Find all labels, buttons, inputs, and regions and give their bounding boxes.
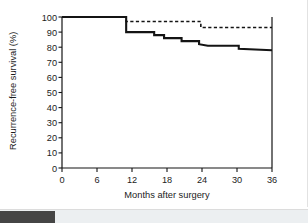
y-tick-80: 80 xyxy=(47,43,57,53)
y-tick-50: 50 xyxy=(47,88,57,98)
dashed-curve-path xyxy=(62,17,272,28)
y-tick-labels: 100 90 80 70 60 50 40 30 20 10 0 xyxy=(42,13,57,174)
x-tick-18: 18 xyxy=(162,175,172,185)
x-tick-6: 6 xyxy=(94,175,99,185)
kaplan-meier-chart: Recurrence-free survival (%) 100 90 80 7… xyxy=(0,0,308,207)
x-axis xyxy=(62,17,272,172)
y-tick-40: 40 xyxy=(47,103,57,113)
x-axis-title: Months after surgery xyxy=(124,190,210,200)
figure-panel: Recurrence-free survival (%) 100 90 80 7… xyxy=(0,0,308,207)
x-tick-36: 36 xyxy=(267,175,277,185)
y-tick-20: 20 xyxy=(47,133,57,143)
series-group xyxy=(62,17,272,50)
y-tick-70: 70 xyxy=(47,58,57,68)
x-tick-12: 12 xyxy=(127,175,137,185)
y-axis xyxy=(59,17,63,168)
scrollbar-thumb[interactable] xyxy=(0,211,55,223)
x-tick-24: 24 xyxy=(197,175,207,185)
y-tick-60: 60 xyxy=(47,73,57,83)
x-tick-labels: 0 6 12 18 24 30 36 xyxy=(59,175,277,185)
y-tick-30: 30 xyxy=(47,118,57,128)
x-tick-30: 30 xyxy=(232,175,242,185)
y-tick-10: 10 xyxy=(47,148,57,158)
y-tick-100: 100 xyxy=(42,13,57,23)
y-tick-0: 0 xyxy=(52,164,57,174)
horizontal-scrollbar[interactable] xyxy=(0,209,308,223)
y-axis-title: Recurrence-free survival (%) xyxy=(8,32,18,150)
x-tick-0: 0 xyxy=(59,175,64,185)
y-tick-90: 90 xyxy=(47,28,57,38)
